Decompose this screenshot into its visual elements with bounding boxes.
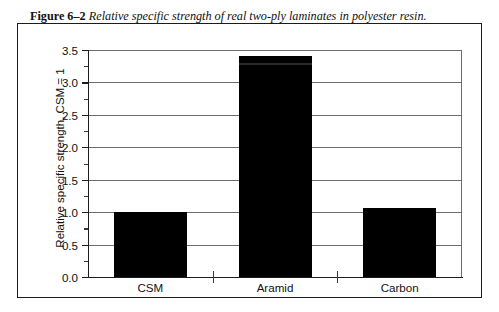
figure-caption-label: Figure 6–2 xyxy=(30,9,86,23)
figure-caption: Figure 6–2 Relative specific strength of… xyxy=(30,9,480,23)
figure-frame xyxy=(17,23,482,298)
figure-caption-text: Relative specific strength of real two-p… xyxy=(89,9,427,23)
